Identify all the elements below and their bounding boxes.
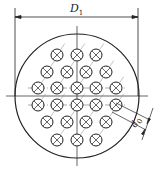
tube bbox=[110, 77, 124, 94]
tube bbox=[80, 111, 94, 128]
tube-sheet-drawing: D1 d0 bbox=[0, 0, 163, 174]
drawing-canvas bbox=[0, 0, 163, 174]
tube bbox=[41, 61, 55, 78]
tube bbox=[41, 111, 55, 128]
tube bbox=[71, 129, 85, 146]
tubes bbox=[32, 44, 124, 146]
tube bbox=[90, 44, 104, 61]
tube bbox=[90, 129, 104, 146]
tube bbox=[71, 77, 85, 94]
tube bbox=[32, 77, 46, 94]
tube bbox=[51, 44, 65, 61]
tube bbox=[51, 129, 65, 146]
tube bbox=[61, 61, 75, 78]
tube bbox=[90, 77, 104, 94]
tube bbox=[80, 61, 94, 78]
outer-diameter-label: D1 bbox=[70, 3, 83, 17]
tube bbox=[71, 44, 85, 61]
outer-diameter-subscript: 1 bbox=[79, 9, 83, 17]
tube bbox=[51, 77, 65, 94]
tube bbox=[61, 111, 75, 128]
outer-diameter-symbol: D bbox=[70, 2, 79, 15]
tube bbox=[100, 111, 114, 128]
tube bbox=[100, 61, 114, 78]
